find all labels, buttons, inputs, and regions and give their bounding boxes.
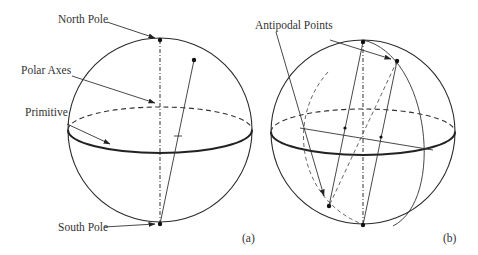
diagram-canvas [0,0,478,255]
stereographic-sphere-diagram: North Pole Polar Axes Primitive South Po… [0,0,478,255]
primitive-arrow [67,124,110,144]
caption-b: (b) [443,233,456,245]
label-south-pole: South Pole [58,222,108,234]
north-pole-point [158,38,162,42]
label-polar-axes: Polar Axes [21,65,71,77]
antipodal-point-bottom-2 [361,223,365,227]
antipodal-point-top-1 [361,40,365,44]
equator-point-1-b [343,126,346,129]
diameter-line-a [160,60,194,224]
label-antipodal-points: Antipodal Points [255,20,333,32]
label-north-pole: North Pole [58,14,108,26]
north-pole-arrow [107,22,155,38]
label-primitive: Primitive [25,107,68,119]
antipodal-arrow-bottom [276,32,324,196]
equatorial-chord-b [300,128,433,150]
south-pole-point [158,222,162,226]
equator-point-2-b [379,135,382,138]
panel-b-sphere [271,32,455,227]
panel-a-sphere [67,22,252,227]
great-circle-back-b [303,72,362,224]
antipodal-point-top-2 [395,59,399,63]
upper-point-a [192,58,196,62]
caption-a: (a) [242,233,255,245]
polar-axes-arrow [72,76,155,103]
antipodal-point-bottom-1 [327,204,331,208]
south-pole-arrow [104,224,155,227]
diameter-1-b [329,42,363,206]
